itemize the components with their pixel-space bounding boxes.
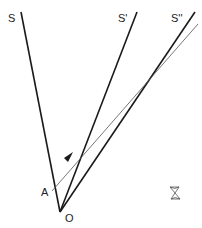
line-s-double-prime [60,12,195,212]
line-s [21,12,60,212]
arrowhead-icon [64,152,73,162]
label-s-double-prime: S'' [171,12,183,24]
reflection-diagram: S S' S'' A O [0,0,202,228]
label-o: O [65,212,74,224]
line-s-prime [60,12,137,212]
ray-from-a [52,24,198,191]
label-a: A [41,186,49,198]
label-s-prime: S' [118,12,127,24]
hourglass-icon [170,187,180,199]
label-s: S [8,12,15,24]
